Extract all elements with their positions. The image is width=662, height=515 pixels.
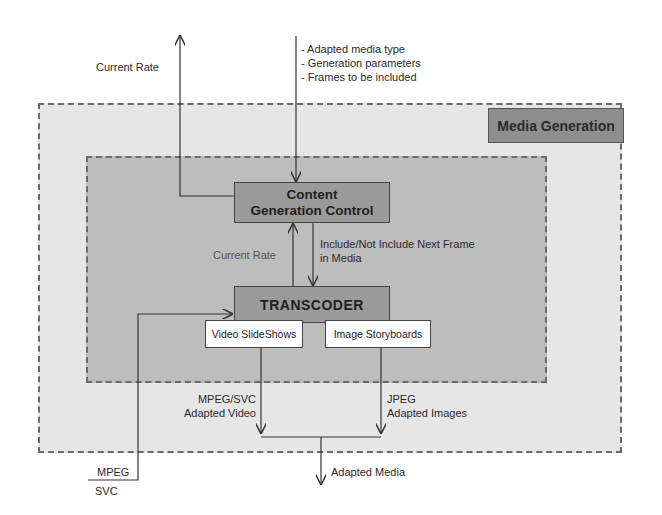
cgc-line-2: Generation Control (250, 203, 373, 219)
current-rate-top-label: Current Rate (96, 60, 159, 74)
content-generation-control-block: Content Generation Control (234, 182, 390, 223)
input-param-1: - Adapted media type (301, 42, 421, 56)
transcoder-label: TRANSCODER (260, 297, 364, 313)
video-slideshows-block: Video SlideShows (205, 320, 303, 348)
input-svc-label: SVC (95, 484, 118, 498)
current-rate-inner-label: Current Rate (213, 248, 276, 262)
video-slideshows-label: Video SlideShows (212, 328, 296, 340)
adapted-media-label: Adapted Media (331, 465, 405, 479)
input-params-label: - Adapted media type - Generation parame… (301, 42, 421, 84)
jpeg-images-line-1: JPEG (387, 392, 467, 406)
include-frame-line-1: Include/Not Include Next Frame (320, 237, 475, 251)
transcoder-block: TRANSCODER (234, 286, 390, 323)
cgc-line-1: Content (287, 187, 338, 203)
include-frame-label: Include/Not Include Next Frame in Media (320, 237, 475, 265)
input-mpeg-label: MPEG (97, 465, 129, 479)
mpeg-svc-video-label: MPEG/SVC Adapted Video (160, 392, 256, 420)
input-param-2: - Generation parameters (301, 56, 421, 70)
input-param-3: - Frames to be included (301, 70, 421, 84)
include-frame-line-2: in Media (320, 251, 475, 265)
mpeg-svc-video-line-2: Adapted Video (160, 406, 256, 420)
jpeg-images-label: JPEG Adapted Images (387, 392, 467, 420)
current-rate-out-arrow (180, 36, 234, 196)
jpeg-images-line-2: Adapted Images (387, 406, 467, 420)
mpeg-svc-video-line-1: MPEG/SVC (160, 392, 256, 406)
image-storyboards-block: Image Storyboards (325, 320, 431, 348)
image-storyboards-label: Image Storyboards (334, 328, 423, 340)
